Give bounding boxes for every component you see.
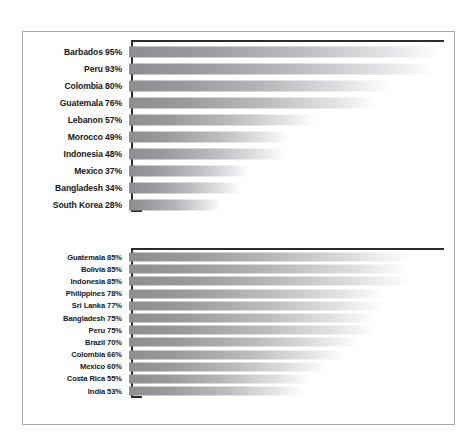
bar-row: Brazil 70% xyxy=(23,336,454,348)
bar-rows-bottom: Guatemala 85%Bolivia 85%Indonesia 85%Phi… xyxy=(23,251,454,397)
bar-chart-top: Barbados 95%Peru 93%Colombia 80%Guatemal… xyxy=(23,40,454,245)
bar-row: South Korea 28% xyxy=(23,196,454,213)
bar-track xyxy=(129,385,454,397)
bar xyxy=(129,387,304,396)
bar-track xyxy=(129,251,454,263)
bar xyxy=(129,314,377,323)
bar-track xyxy=(129,179,454,196)
bar-track xyxy=(129,324,454,336)
bar-row-label: Indonesia 85% xyxy=(23,277,127,286)
bar-row: Bolivia 85% xyxy=(23,263,454,275)
bar-track xyxy=(129,43,454,60)
bar-row-label: India 53% xyxy=(23,387,127,396)
bar-track xyxy=(129,263,454,275)
bar-row: Philippines 78% xyxy=(23,288,454,300)
bar-row: Guatemala 85% xyxy=(23,251,454,263)
bar-track xyxy=(129,361,454,373)
bar-track xyxy=(129,111,454,128)
bar-row: Mexico 60% xyxy=(23,361,454,373)
bar xyxy=(129,350,347,359)
bar xyxy=(129,301,383,310)
bar xyxy=(129,277,410,286)
bar-row: Lebanon 57% xyxy=(23,111,454,128)
bar-row: Bangladesh 75% xyxy=(23,312,454,324)
bar xyxy=(129,148,286,159)
bar-row-label: Guatemala 76% xyxy=(23,98,127,108)
bar xyxy=(129,182,241,193)
bar-row-label: Bolivia 85% xyxy=(23,265,127,274)
bar-row: Colombia 66% xyxy=(23,349,454,361)
bar-row: Indonesia 48% xyxy=(23,145,454,162)
bar-track xyxy=(129,288,454,300)
bar-track xyxy=(129,349,454,361)
figure-page: Barbados 95%Peru 93%Colombia 80%Guatemal… xyxy=(0,0,474,444)
bar-row: Guatemala 76% xyxy=(23,94,454,111)
bar-chart-bottom: Guatemala 85%Bolivia 85%Indonesia 85%Phi… xyxy=(23,248,454,420)
bar xyxy=(129,253,410,262)
bar-track xyxy=(129,162,454,179)
bar-row-label: Bangladesh 34% xyxy=(23,183,127,193)
bar-row: Indonesia 85% xyxy=(23,275,454,287)
axis-top-rule xyxy=(131,40,444,42)
bar-row: Peru 93% xyxy=(23,60,454,77)
bar-track xyxy=(129,77,454,94)
bar-row: Mexico 37% xyxy=(23,162,454,179)
bar xyxy=(129,114,316,125)
bar-row-label: Mexico 37% xyxy=(23,166,127,176)
bar-row-label: Sri Lanka 77% xyxy=(23,301,127,310)
bar xyxy=(129,374,311,383)
bar-row-label: Colombia 80% xyxy=(23,81,127,91)
bar-row: Morocco 49% xyxy=(23,128,454,145)
bar-row: Colombia 80% xyxy=(23,77,454,94)
bar-row-label: Lebanon 57% xyxy=(23,115,127,125)
bar xyxy=(129,63,434,74)
bar-track xyxy=(129,94,454,111)
bar-row-label: Guatemala 85% xyxy=(23,253,127,262)
bar-track xyxy=(129,196,454,213)
bar-track xyxy=(129,312,454,324)
bar-track xyxy=(129,275,454,287)
bar-row: Barbados 95% xyxy=(23,43,454,60)
bar xyxy=(129,289,386,298)
bar-row-label: Philippines 78% xyxy=(23,289,127,298)
bar xyxy=(129,362,327,371)
bar-row-label: Mexico 60% xyxy=(23,362,127,371)
bar-row: Bangladesh 34% xyxy=(23,179,454,196)
bar xyxy=(129,131,290,142)
bar xyxy=(129,97,378,108)
bar-track xyxy=(129,373,454,385)
bar-rows-top: Barbados 95%Peru 93%Colombia 80%Guatemal… xyxy=(23,43,454,213)
bar xyxy=(129,46,441,57)
bar-row: Peru 75% xyxy=(23,324,454,336)
bar-row-label: Brazil 70% xyxy=(23,338,127,347)
bar-row-label: Morocco 49% xyxy=(23,132,127,142)
bar-track xyxy=(129,145,454,162)
bar-row-label: Peru 93% xyxy=(23,64,127,74)
bar-track xyxy=(129,336,454,348)
figure-frame: Barbados 95%Peru 93%Colombia 80%Guatemal… xyxy=(22,31,455,425)
bar xyxy=(129,199,221,210)
bar-row-label: South Korea 28% xyxy=(23,200,127,210)
bar-track xyxy=(129,300,454,312)
bar-track xyxy=(129,60,454,77)
bar-row-label: Bangladesh 75% xyxy=(23,314,127,323)
bar xyxy=(129,265,410,274)
bar-row-label: Colombia 66% xyxy=(23,350,127,359)
bar-row-label: Peru 75% xyxy=(23,326,127,335)
bar-row-label: Barbados 95% xyxy=(23,47,127,57)
bar xyxy=(129,165,250,176)
bar-track xyxy=(129,128,454,145)
bar xyxy=(129,326,377,335)
axis-top-rule xyxy=(131,248,444,250)
bar-row-label: Indonesia 48% xyxy=(23,149,127,159)
bar-row: Costa Rica 55% xyxy=(23,373,454,385)
bar-row: India 53% xyxy=(23,385,454,397)
bar-row-label: Costa Rica 55% xyxy=(23,374,127,383)
bar-row: Sri Lanka 77% xyxy=(23,300,454,312)
bar xyxy=(129,338,360,347)
bar xyxy=(129,80,391,91)
